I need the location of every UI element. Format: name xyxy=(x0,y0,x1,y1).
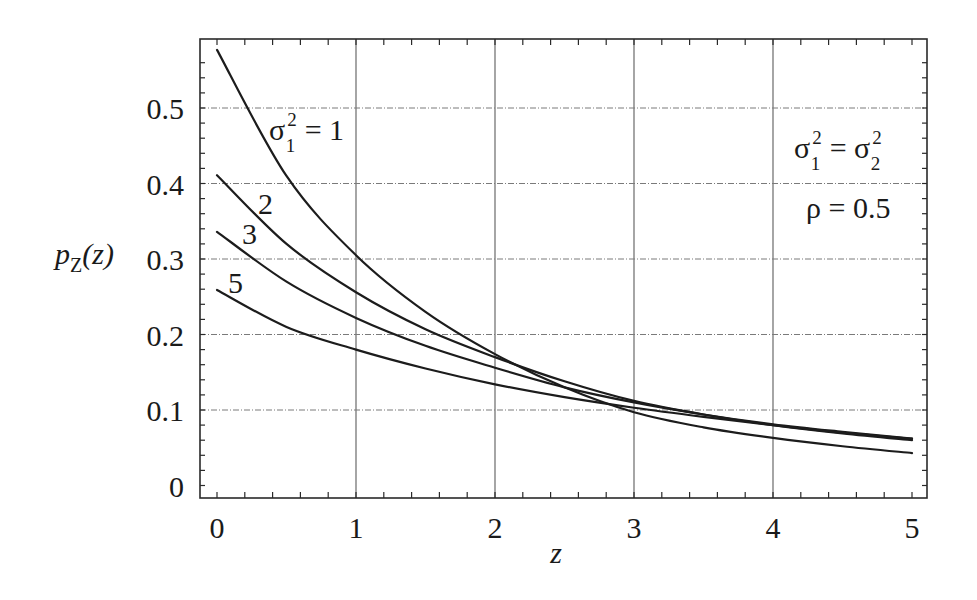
y-axis-label: pZ(z) xyxy=(53,237,114,276)
x-tick-label: 5 xyxy=(905,511,920,544)
y-tick-label: 0.4 xyxy=(147,168,185,201)
curve-label-2: 2 xyxy=(258,187,273,220)
x-tick-label: 4 xyxy=(766,511,781,544)
y-tick-label: 0 xyxy=(169,470,184,503)
y-tick-label: 0.2 xyxy=(147,319,185,352)
x-tick-label: 0 xyxy=(210,511,225,544)
y-tick-label: 0.1 xyxy=(147,394,185,427)
curve-series-3 xyxy=(217,232,912,439)
curve-label-sigma1: σ21 = 1 xyxy=(269,109,344,156)
x-tick-label: 2 xyxy=(488,511,503,544)
y-tick-label: 0.5 xyxy=(147,92,185,125)
curve-label-3: 3 xyxy=(242,217,257,250)
annotation-equal-variance: σ21 = σ22 xyxy=(794,127,882,174)
curve-series-4 xyxy=(217,290,912,439)
x-tick-label: 1 xyxy=(349,511,364,544)
chart: 012345 00.10.20.30.40.5 pZ(z) z σ21 = 1 … xyxy=(0,0,977,600)
curve-series-1 xyxy=(217,50,912,453)
annotation-rho: ρ = 0.5 xyxy=(806,191,890,224)
x-axis-label: z xyxy=(549,536,562,569)
curves xyxy=(217,50,912,453)
x-tick-labels: 012345 xyxy=(210,511,920,544)
y-tick-labels: 00.10.20.30.40.5 xyxy=(147,92,185,503)
y-tick-label: 0.3 xyxy=(147,243,185,276)
x-tick-label: 3 xyxy=(627,511,642,544)
curve-label-5: 5 xyxy=(228,266,243,299)
